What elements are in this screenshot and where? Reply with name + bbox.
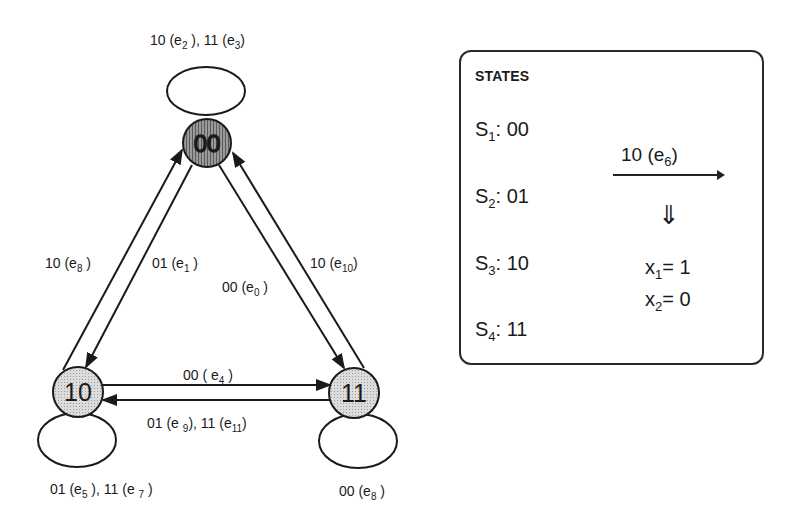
loop-00: [167, 67, 245, 115]
output-x2: x2= 0: [645, 288, 691, 314]
node-11: 11: [329, 368, 379, 418]
node-00: 00: [183, 119, 231, 167]
loop-11: [319, 414, 397, 468]
label-e10: 10 (e10): [310, 255, 358, 274]
states-legend-panel: STATES S1: 00 S2: 01 S3: 10 S4: 11 10 (e…: [459, 50, 764, 365]
state-s4: S4: 11: [475, 318, 527, 344]
label-loop-11: 00 (e8 ): [339, 483, 385, 502]
states-title: STATES: [475, 68, 529, 84]
label-e8-left: 10 (e8 ): [45, 255, 91, 274]
label-e4: 00 ( e4 ): [183, 367, 233, 386]
output-x1: x1= 1: [645, 256, 691, 282]
state-s3: S3: 10: [475, 252, 529, 278]
svg-text:00: 00: [194, 130, 221, 157]
label-e0: 00 (e0 ): [222, 279, 268, 298]
loop-10: [38, 413, 116, 467]
label-loop-00: 10 (e2 ), 11 (e3): [150, 32, 245, 51]
state-s2: S2: 01: [475, 185, 529, 211]
svg-text:11: 11: [341, 379, 367, 407]
label-e9-e11: 01 (e 9), 11 (e11): [147, 415, 247, 434]
svg-text:10: 10: [64, 378, 92, 406]
state-s1: S1: 00: [475, 118, 529, 144]
label-loop-10: 01 (e5 ), 11 (e 7 ): [50, 481, 153, 500]
node-10: 10: [53, 367, 103, 417]
transition-arrow-icon: [613, 174, 723, 176]
label-e1: 01 (e1 ): [152, 255, 198, 274]
implies-arrow-icon: ⇓: [658, 202, 680, 228]
transition-label: 10 (e6): [621, 144, 678, 169]
edge-11-to-00: [233, 153, 364, 368]
